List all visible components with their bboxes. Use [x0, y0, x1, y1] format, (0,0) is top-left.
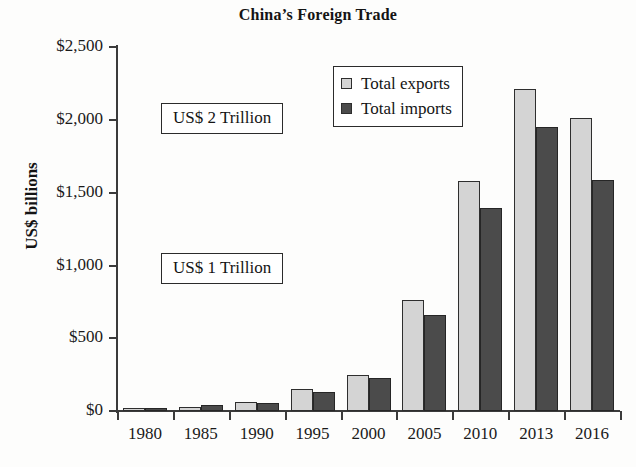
x-tick-1980	[117, 411, 119, 420]
y-tick-label-0: $0	[86, 400, 103, 420]
bar-2005-imports	[424, 315, 446, 411]
legend-item-exports[interactable]: Total exports	[341, 71, 452, 96]
bar-2010-exports	[458, 181, 480, 411]
y-tick-label-500: $500	[69, 327, 103, 347]
y-tick-label-1500: $1,500	[56, 182, 103, 202]
x-tick-2016	[564, 411, 566, 420]
x-tick-label-1995: 1995	[281, 424, 345, 444]
x-tick-label-2000: 2000	[337, 424, 401, 444]
bar-1995-imports	[313, 392, 335, 411]
x-tick-2010	[452, 411, 454, 420]
bar-1990-exports	[235, 402, 257, 411]
y-tick-label-2500: $2,500	[56, 36, 103, 56]
x-tick-label-2016: 2016	[560, 424, 624, 444]
x-tick-label-1990: 1990	[225, 424, 289, 444]
bar-2016-exports	[570, 118, 592, 411]
chart-figure: China’s Foreign Trade US$ billions $0 $5…	[0, 0, 636, 467]
x-tick-1990	[229, 411, 231, 420]
x-tick-1995	[285, 411, 287, 420]
y-tick-label-1000: $1,000	[56, 255, 103, 275]
legend-swatch-imports-icon	[341, 103, 352, 114]
bar-1985-imports	[201, 405, 223, 411]
chart-legend: Total exports Total imports	[333, 66, 463, 127]
bar-2013-exports	[514, 89, 536, 411]
bar-2016-imports	[592, 180, 614, 411]
bar-1980-imports	[145, 408, 167, 411]
legend-swatch-exports-icon	[341, 78, 352, 89]
legend-label-imports: Total imports	[361, 100, 452, 117]
annotation-us-1-trillion: US$ 1 Trillion	[161, 253, 283, 284]
x-tick-label-2013: 2013	[504, 424, 568, 444]
bar-1990-imports	[257, 403, 279, 411]
bar-2013-imports	[536, 127, 558, 411]
bar-2010-imports	[480, 208, 502, 411]
bar-1995-exports	[291, 389, 313, 411]
y-tick-label-2000: $2,000	[56, 109, 103, 129]
x-tick-2000	[341, 411, 343, 420]
bar-2005-exports	[402, 300, 424, 411]
x-tick-2013	[508, 411, 510, 420]
x-tick-label-1985: 1985	[169, 424, 233, 444]
bar-1980-exports	[123, 408, 145, 411]
annotation-us-2-trillion: US$ 2 Trillion	[161, 103, 283, 134]
legend-label-exports: Total exports	[361, 75, 450, 92]
x-tick-2005	[396, 411, 398, 420]
x-tick-label-2010: 2010	[448, 424, 512, 444]
x-tick-1985	[173, 411, 175, 420]
bar-2000-imports	[369, 378, 391, 411]
x-tick-end	[620, 411, 622, 420]
x-tick-label-1980: 1980	[113, 424, 177, 444]
y-axis-title: US$ billions	[22, 126, 42, 286]
bar-1985-exports	[179, 407, 201, 411]
chart-title: China’s Foreign Trade	[0, 6, 636, 24]
legend-item-imports[interactable]: Total imports	[341, 96, 452, 121]
bar-2000-exports	[347, 375, 369, 411]
x-tick-label-2005: 2005	[392, 424, 456, 444]
